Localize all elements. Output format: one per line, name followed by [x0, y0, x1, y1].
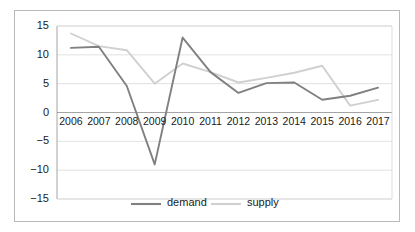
legend-label-supply: supply — [247, 196, 279, 208]
y-tick-label: 10 — [19, 48, 49, 60]
y-tick-label: 0 — [19, 106, 49, 118]
x-tick-label: 2017 — [361, 115, 395, 127]
y-tick-label: 15 — [19, 19, 49, 31]
y-tick-label: 5 — [19, 77, 49, 89]
y-tick-label: −5 — [19, 134, 49, 146]
legend-label-demand: demand — [167, 196, 207, 208]
y-tick-label: −10 — [19, 163, 49, 175]
series-line-supply — [71, 34, 378, 106]
chart-figure: 151050−5−10−15 2006200720082009201020112… — [0, 0, 415, 232]
series-lines-group — [71, 34, 378, 165]
gridlines-group — [57, 26, 392, 199]
chart-frame: 151050−5−10−15 2006200720082009201020112… — [14, 10, 400, 222]
y-tick-label: −15 — [19, 192, 49, 204]
series-line-demand — [71, 38, 378, 165]
